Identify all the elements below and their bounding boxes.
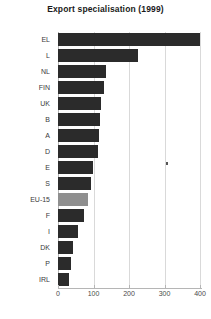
y-label-i: I [48,224,50,240]
y-label-uk: UK [40,96,50,112]
x-tick-label-400: 400 [194,290,206,297]
bar-row [58,128,200,144]
y-label-irl: IRL [39,272,50,288]
bar-rows [58,32,200,288]
bar-row [58,192,200,208]
bar-d[interactable] [58,145,98,158]
x-tick-mark [200,285,201,289]
x-tick-mark [94,285,95,289]
bar-row [58,240,200,256]
bar-i[interactable] [58,225,78,238]
y-label-l: L [46,48,50,64]
y-label-s: S [45,176,50,192]
bar-uk[interactable] [58,97,101,110]
bar-dk[interactable] [58,241,73,254]
x-tick-label-300: 300 [159,290,171,297]
x-tick-mark [165,285,166,289]
y-label-fin: FIN [39,80,50,96]
y-axis-labels: ELLNLFINUKBADESEU-15FIDKPIRL [0,32,54,288]
bar-b[interactable] [58,113,100,126]
bar-row [58,160,200,176]
y-label-dk: DK [40,240,50,256]
y-label-el: EL [41,32,50,48]
bar-fin[interactable] [58,81,104,94]
gridline [200,32,201,288]
x-tick-mark [129,285,130,289]
bar-row [58,176,200,192]
y-label-f: F [46,208,50,224]
bar-row [58,96,200,112]
bar-row [58,208,200,224]
bar-s[interactable] [58,177,91,190]
x-axis-ticks: 0100200300400 [58,290,208,304]
bar-row [58,32,200,48]
bar-p[interactable] [58,257,71,270]
bar-l[interactable] [58,49,138,62]
bar-irl[interactable] [58,273,69,286]
bar-eu-15[interactable] [58,193,88,206]
chart-title: Export specialisation (1999) [0,4,211,14]
y-label-eu-15: EU-15 [30,192,50,208]
bar-f[interactable] [58,209,84,222]
x-tick-label-200: 200 [123,290,135,297]
plot-area [58,32,200,288]
x-tick-label-0: 0 [56,290,60,297]
bar-row [58,224,200,240]
bar-el[interactable] [58,33,200,46]
y-label-nl: NL [41,64,50,80]
y-label-e: E [45,160,50,176]
bar-e[interactable] [58,161,93,174]
y-label-b: B [45,112,50,128]
x-axis-line [58,288,202,289]
bar-row [58,256,200,272]
bar-a[interactable] [58,129,99,142]
y-label-p: P [45,256,50,272]
x-tick-mark [58,285,59,289]
bar-row [58,48,200,64]
y-label-a: A [45,128,50,144]
bar-nl[interactable] [58,65,106,78]
bar-row [58,64,200,80]
y-label-d: D [45,144,50,160]
x-tick-label-100: 100 [88,290,100,297]
stray-mark [166,162,168,165]
chart-container: Export specialisation (1999) ELLNLFINUKB… [0,0,211,319]
bar-row [58,144,200,160]
bar-row [58,80,200,96]
bar-row [58,112,200,128]
